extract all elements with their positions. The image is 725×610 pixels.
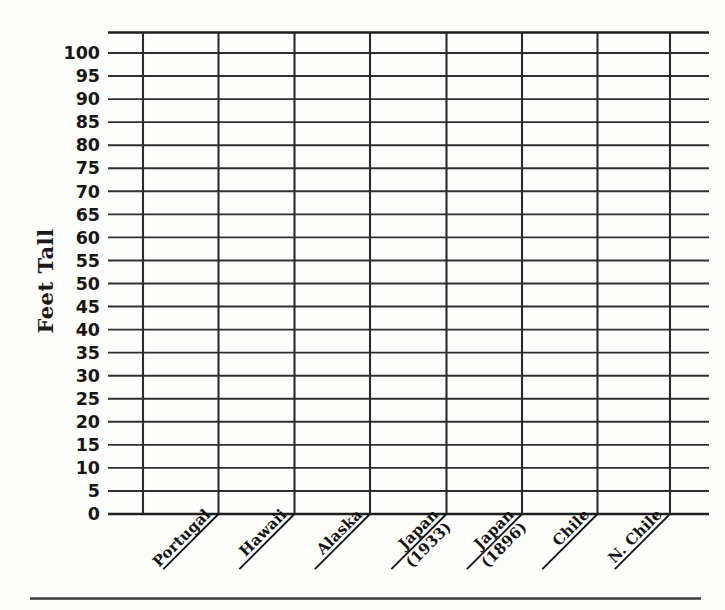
y-tick-label-100: 100	[63, 43, 100, 63]
y-tick-label-55: 55	[76, 251, 100, 271]
vertical-gridlines	[143, 33, 670, 515]
y-tick-label-20: 20	[76, 412, 100, 432]
y-tick-label-45: 45	[76, 297, 100, 317]
y-tick-label-15: 15	[76, 435, 100, 455]
x-category-line1-5: Chile	[549, 506, 593, 550]
x-category-text-5: Chile	[549, 506, 593, 550]
y-tick-label-10: 10	[76, 458, 100, 478]
x-category-label-4: Japan(1896)	[465, 506, 531, 572]
y-tick-label-0: 0	[88, 504, 100, 524]
worksheet-page: Feet Tall 100959085807570656055504540353…	[0, 0, 725, 610]
y-tick-label-70: 70	[76, 182, 100, 202]
x-category-text-0: Portugal	[149, 505, 214, 570]
x-category-line1-0: Portugal	[149, 505, 214, 570]
y-axis-tick-labels: 1009590858075706560555045403530252015105…	[63, 43, 100, 524]
y-tick-label-40: 40	[76, 320, 100, 340]
horizontal-gridlines	[108, 33, 709, 515]
y-tick-label-50: 50	[76, 274, 100, 294]
x-category-label-3: Japan(1933)	[389, 506, 455, 572]
y-tick-label-95: 95	[76, 66, 100, 86]
y-axis-title: Feet Tall	[33, 228, 58, 333]
y-tick-label-80: 80	[76, 135, 100, 155]
y-tick-label-85: 85	[76, 112, 100, 132]
x-axis-category-labels: PortugalHawaiiAlaskaJapan(1933)Japan(189…	[149, 505, 670, 571]
y-tick-label-25: 25	[76, 389, 100, 409]
y-tick-label-60: 60	[76, 228, 100, 248]
y-tick-label-75: 75	[76, 158, 100, 178]
x-category-label-0: Portugal	[149, 505, 218, 570]
blank-bar-chart: Feet Tall 100959085807570656055504540353…	[0, 0, 725, 610]
y-tick-label-30: 30	[76, 366, 100, 386]
y-tick-label-5: 5	[88, 481, 100, 501]
y-tick-label-90: 90	[76, 89, 100, 109]
y-tick-label-35: 35	[76, 343, 100, 363]
y-tick-label-65: 65	[76, 205, 100, 225]
